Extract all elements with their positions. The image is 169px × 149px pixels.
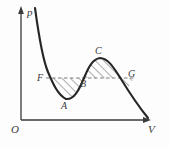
axis-label-volume: V [148, 124, 155, 135]
point-label-g: G [128, 69, 135, 79]
horizontal-axis [21, 117, 151, 123]
vertical-axis [18, 6, 24, 120]
point-label-b: B [80, 79, 86, 89]
isotherm-curve [35, 8, 148, 118]
axis-arrow-up-icon [18, 6, 24, 14]
point-label-f: F [37, 73, 43, 83]
point-label-c: C [95, 46, 102, 56]
diagram-canvas [0, 0, 169, 149]
pv-diagram-figure: p V O F A B C G [0, 0, 169, 149]
point-label-a: A [61, 101, 67, 111]
axis-label-pressure: p [27, 7, 33, 18]
axis-label-origin: O [11, 124, 19, 135]
